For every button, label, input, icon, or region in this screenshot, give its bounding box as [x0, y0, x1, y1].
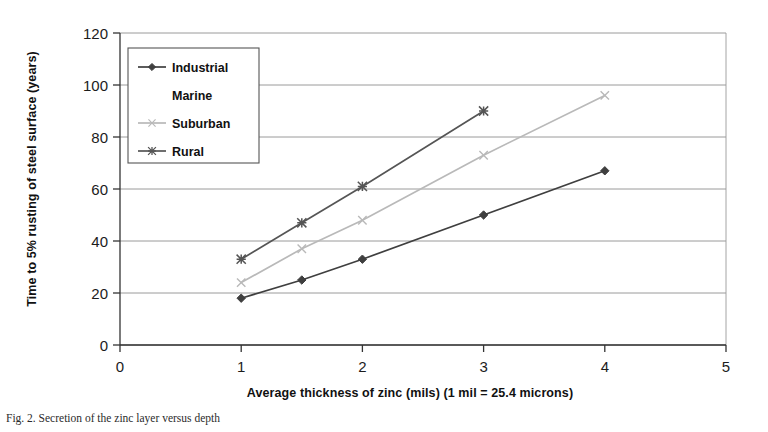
chart-legend: IndustrialMarineSuburbanRural [128, 48, 259, 163]
legend-label: Suburban [172, 117, 230, 131]
line-chart: 020406080100120 012345 IndustrialMarineS… [0, 0, 768, 432]
legend-label: Marine [172, 89, 212, 103]
diamond-marker-icon [479, 211, 487, 219]
x-tick-label: 5 [722, 358, 730, 375]
asterisk-marker-icon [358, 182, 367, 191]
y-tick-label: 0 [100, 337, 108, 354]
asterisk-marker-icon [237, 255, 246, 264]
x-marker-icon [298, 245, 306, 253]
data-series-group [237, 91, 609, 302]
y-axis-ticks: 020406080100120 [83, 25, 120, 354]
figure-caption: Fig. 2. Secretion of the zinc layer vers… [6, 412, 220, 424]
x-axis-ticks: 012345 [116, 345, 730, 375]
diamond-marker-icon [237, 294, 245, 302]
y-tick-label: 40 [91, 233, 108, 250]
x-marker-icon [601, 91, 609, 99]
x-axis-title: Average thickness of zinc (mils) (1 mil … [90, 386, 730, 400]
x-marker-icon [479, 151, 487, 159]
asterisk-marker-icon [297, 218, 306, 227]
y-tick-label: 20 [91, 285, 108, 302]
asterisk-marker-icon [479, 106, 488, 115]
x-tick-label: 4 [601, 358, 609, 375]
legend-label: Rural [172, 145, 204, 159]
x-tick-label: 1 [237, 358, 245, 375]
x-tick-label: 3 [479, 358, 487, 375]
x-marker-icon [237, 278, 245, 286]
y-tick-label: 100 [83, 77, 108, 94]
figure-container: Time to 5% rusting of steel surface (yea… [0, 0, 768, 432]
series-rural [237, 106, 489, 263]
legend-label: Industrial [172, 61, 228, 75]
diamond-marker-icon [358, 255, 366, 263]
diamond-marker-icon [298, 276, 306, 284]
y-tick-label: 120 [83, 25, 108, 42]
asterisk-marker-icon [148, 147, 156, 155]
x-marker-icon [358, 216, 366, 224]
series-line [241, 171, 605, 298]
y-tick-label: 80 [91, 129, 108, 146]
x-tick-label: 2 [358, 358, 366, 375]
diamond-marker-icon [601, 167, 609, 175]
y-tick-label: 60 [91, 181, 108, 198]
x-tick-label: 0 [116, 358, 124, 375]
legend-item-marine[interactable]: Marine [172, 89, 212, 103]
